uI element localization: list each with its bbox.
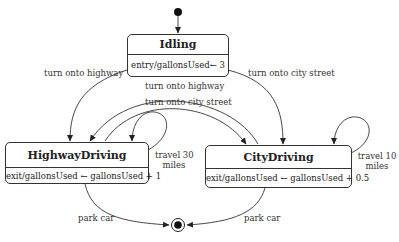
transition-label: park car <box>244 213 280 223</box>
state-city-driving: CityDriving exit/gallonsUsed ← gallonsUs… <box>205 145 352 188</box>
transition-label: turn onto highway <box>145 81 224 91</box>
state-activity: exit/gallonsUsed ← gallonsUsed + 0.5 <box>206 169 351 188</box>
state-activity: entry/gallonsUsed← 3 <box>128 55 228 76</box>
transition-label: turn onto highway <box>44 68 123 78</box>
transition-label: park car <box>78 213 114 223</box>
state-name: CityDriving <box>206 146 351 169</box>
state-activity: exit/gallonsUsed ← gallonsUsed + 1 <box>6 168 148 184</box>
transition-label-travel-10: travel 10 miles <box>357 151 397 171</box>
state-highway-driving: HighwayDriving exit/gallonsUsed ← gallon… <box>5 142 149 184</box>
transition-label-travel-30: travel 30 miles <box>155 150 193 170</box>
state-name: Idling <box>128 35 228 55</box>
transition-label: turn onto city street <box>145 97 232 107</box>
transition-label: turn onto city street <box>248 68 335 78</box>
initial-state-icon <box>174 8 182 16</box>
state-name: HighwayDriving <box>6 143 148 168</box>
state-idling: Idling entry/gallonsUsed← 3 <box>127 34 229 77</box>
